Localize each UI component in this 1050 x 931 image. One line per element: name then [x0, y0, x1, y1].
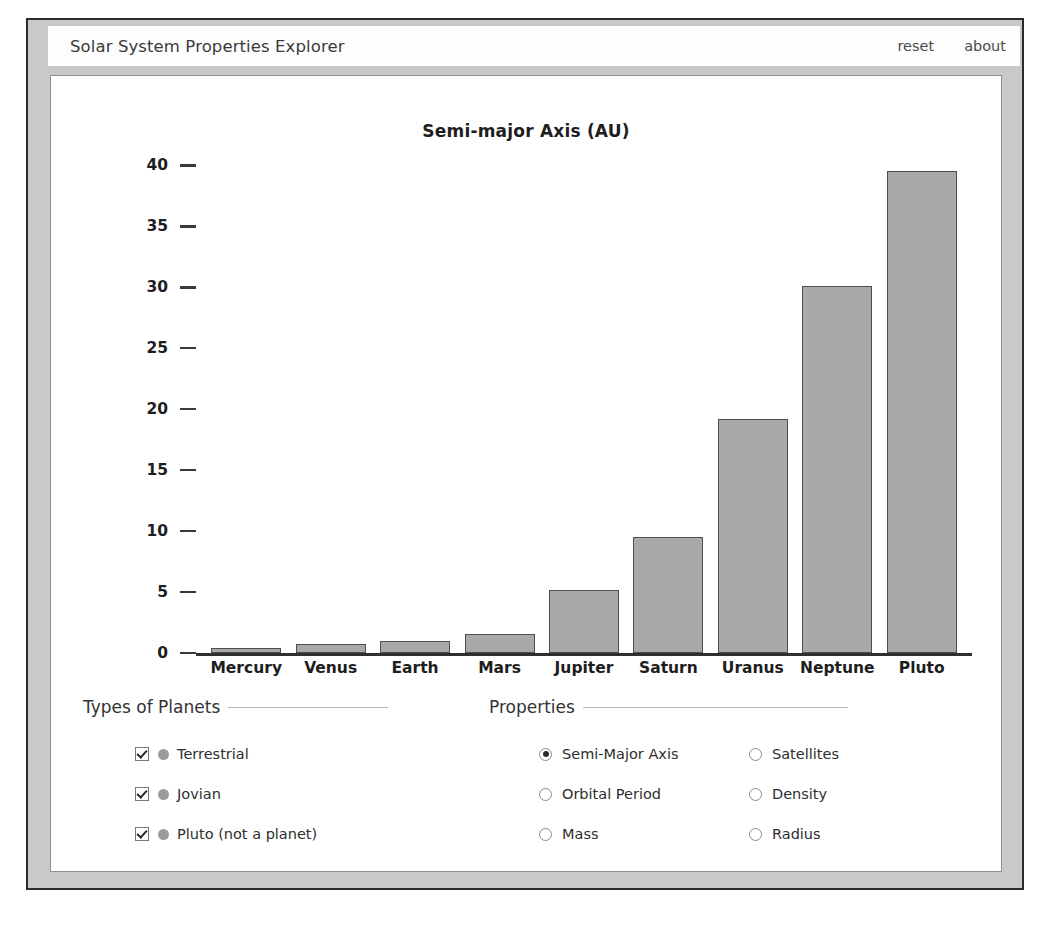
- planet-type-label: Terrestrial: [177, 746, 249, 762]
- x-axis-label: Neptune: [795, 659, 879, 677]
- property-option[interactable]: Semi-Major Axis: [539, 734, 749, 774]
- about-button[interactable]: about: [964, 38, 1006, 54]
- x-axis-labels: MercuryVenusEarthMarsJupiterSaturnUranus…: [204, 659, 964, 677]
- properties-group-header: Properties: [489, 694, 971, 720]
- checkbox-icon[interactable]: [135, 787, 149, 801]
- radio-button-icon[interactable]: [539, 788, 552, 801]
- chart-bar[interactable]: [296, 644, 366, 653]
- chart-bar[interactable]: [718, 419, 788, 653]
- content-panel: Semi-major Axis (AU) 0510152025303540 Me…: [50, 75, 1002, 872]
- y-axis-tick: 10: [76, 523, 196, 539]
- y-axis-tick-label: 10: [146, 522, 168, 540]
- y-axis-tick-mark: [180, 652, 196, 655]
- bar-slot: [795, 141, 879, 653]
- color-swatch-icon: [158, 789, 169, 800]
- x-axis-label: Jupiter: [542, 659, 626, 677]
- y-axis-tick-mark: [180, 286, 196, 289]
- bar-chart: 0510152025303540 MercuryVenusEarthMarsJu…: [76, 141, 976, 701]
- planet-type-label: Jovian: [177, 786, 221, 802]
- y-axis-tick-label: 0: [157, 644, 168, 662]
- x-axis-line: [196, 653, 972, 656]
- y-axis-tick-label: 30: [146, 278, 168, 296]
- radio-button-icon[interactable]: [539, 828, 552, 841]
- y-axis-tick-label: 40: [146, 156, 168, 174]
- property-radio-columns: Semi-Major AxisOrbital PeriodMass Satell…: [489, 734, 971, 854]
- property-label: Density: [772, 786, 827, 802]
- reset-button[interactable]: reset: [897, 38, 934, 54]
- x-axis-label: Saturn: [626, 659, 710, 677]
- y-axis-tick: 0: [76, 645, 196, 661]
- y-axis-tick-mark: [180, 530, 196, 533]
- properties-group: Properties Semi-Major AxisOrbital Period…: [471, 694, 971, 869]
- application-window: Solar System Properties Explorer reset a…: [26, 18, 1024, 890]
- types-of-planets-group: Types of Planets TerrestrialJovianPluto …: [51, 694, 471, 869]
- property-option[interactable]: Orbital Period: [539, 774, 749, 814]
- y-axis-tick-mark: [180, 225, 196, 228]
- planet-type-label: Pluto (not a planet): [177, 826, 317, 842]
- types-group-header: Types of Planets: [83, 694, 471, 720]
- y-axis-tick-label: 25: [146, 339, 168, 357]
- checkbox-icon[interactable]: [135, 747, 149, 761]
- group-divider: [228, 707, 388, 708]
- planet-type-option[interactable]: Jovian: [135, 774, 471, 814]
- chart-bar[interactable]: [802, 286, 872, 653]
- bar-slot: [626, 141, 710, 653]
- chart-bar[interactable]: [887, 171, 957, 653]
- planet-type-checkbox-list: TerrestrialJovianPluto (not a planet): [83, 734, 471, 854]
- property-radio-column-right: SatellitesDensityRadius: [749, 734, 959, 854]
- property-label: Satellites: [772, 746, 839, 762]
- checkbox-icon[interactable]: [135, 827, 149, 841]
- y-axis-tick-label: 15: [146, 461, 168, 479]
- y-axis-tick-label: 20: [146, 400, 168, 418]
- properties-group-title: Properties: [489, 697, 575, 717]
- property-option[interactable]: Density: [749, 774, 959, 814]
- chart-bar[interactable]: [380, 641, 450, 653]
- x-axis-label: Mars: [457, 659, 541, 677]
- planet-type-option[interactable]: Terrestrial: [135, 734, 471, 774]
- chart-title: Semi-major Axis (AU): [51, 121, 1001, 141]
- chart-bar[interactable]: [633, 537, 703, 653]
- y-axis: 0510152025303540: [76, 141, 196, 653]
- page-title: Solar System Properties Explorer: [70, 37, 345, 56]
- bar-slot: [373, 141, 457, 653]
- x-axis-label: Venus: [288, 659, 372, 677]
- bar-slot: [457, 141, 541, 653]
- radio-button-icon[interactable]: [539, 748, 552, 761]
- y-axis-tick-mark: [180, 591, 196, 594]
- bar-slot: [880, 141, 964, 653]
- planet-type-option[interactable]: Pluto (not a planet): [135, 814, 471, 854]
- radio-button-icon[interactable]: [749, 748, 762, 761]
- x-axis-label: Pluto: [880, 659, 964, 677]
- y-axis-tick: 35: [76, 218, 196, 234]
- y-axis-tick-mark: [180, 164, 196, 167]
- property-label: Orbital Period: [562, 786, 661, 802]
- y-axis-tick: 15: [76, 462, 196, 478]
- bar-slot: [711, 141, 795, 653]
- bar-slot: [204, 141, 288, 653]
- y-axis-tick-label: 35: [146, 217, 168, 235]
- y-axis-tick: 25: [76, 340, 196, 356]
- property-label: Mass: [562, 826, 599, 842]
- bars-area: [204, 141, 964, 653]
- x-axis-label: Earth: [373, 659, 457, 677]
- chart-bar[interactable]: [549, 590, 619, 653]
- y-axis-tick: 5: [76, 584, 196, 600]
- chart-bar[interactable]: [465, 634, 535, 653]
- radio-button-icon[interactable]: [749, 828, 762, 841]
- bar-slot: [288, 141, 372, 653]
- types-group-title: Types of Planets: [83, 697, 220, 717]
- y-axis-tick: 40: [76, 157, 196, 173]
- radio-button-icon[interactable]: [749, 788, 762, 801]
- y-axis-tick: 30: [76, 279, 196, 295]
- property-option[interactable]: Radius: [749, 814, 959, 854]
- color-swatch-icon: [158, 829, 169, 840]
- x-axis-label: Mercury: [204, 659, 288, 677]
- group-divider: [583, 707, 848, 708]
- y-axis-tick-mark: [180, 347, 196, 350]
- y-axis-tick-mark: [180, 469, 196, 472]
- property-option[interactable]: Mass: [539, 814, 749, 854]
- title-bar: Solar System Properties Explorer reset a…: [48, 26, 1020, 66]
- y-axis-tick-mark: [180, 408, 196, 411]
- bar-slot: [542, 141, 626, 653]
- property-option[interactable]: Satellites: [749, 734, 959, 774]
